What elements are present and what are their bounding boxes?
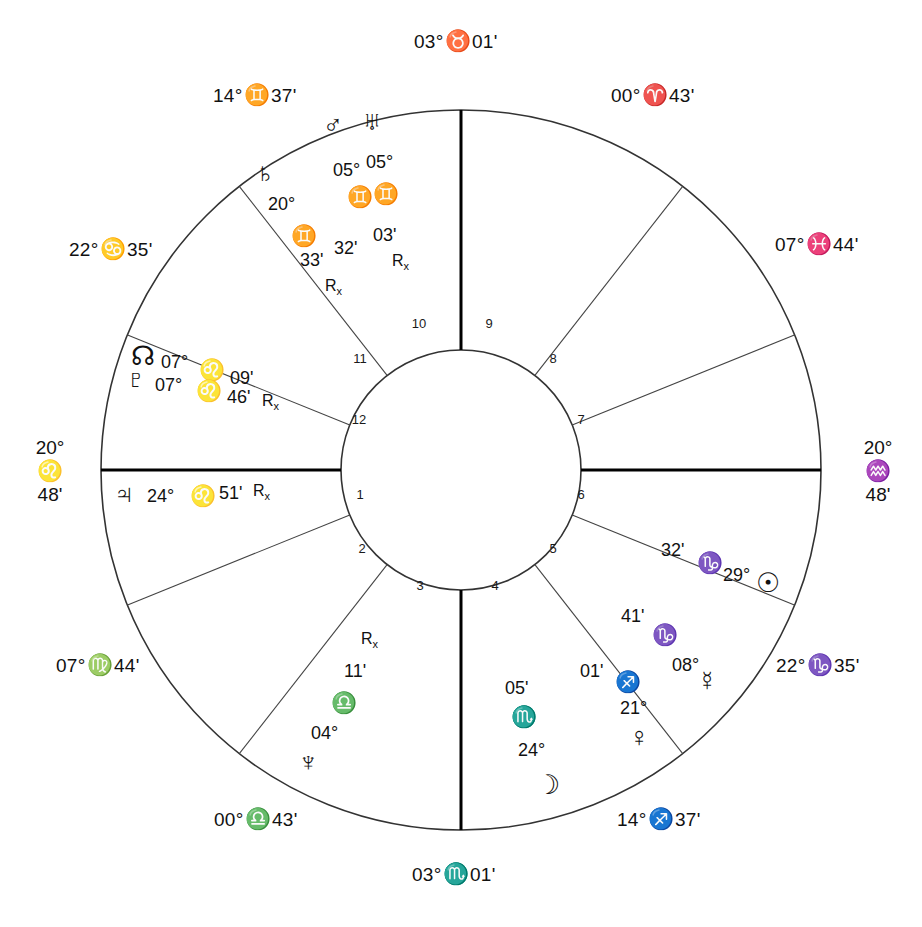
sign-glyph-virgo: ♍ (86, 653, 114, 676)
cusp-label-11: 14°♊37' (213, 84, 297, 106)
sign-glyph-capricorn: ♑ (697, 551, 723, 574)
house-number-11: 11 (350, 351, 370, 366)
uranus-icon: ♅ (362, 106, 382, 136)
cusp-minute: 35' (834, 655, 860, 676)
sign-glyph-taurus: ♉ (444, 29, 472, 52)
house-number-5: 5 (543, 541, 563, 556)
sign-glyph-gemini: ♊ (373, 182, 399, 205)
planet-sun-minute: 32' (661, 540, 684, 561)
cusp-degree: 22° (69, 239, 99, 260)
sign-glyph-scorpio: ♏ (442, 862, 470, 885)
sign-glyph-capricorn: ♑ (652, 623, 678, 646)
saturn-icon: ♄ (255, 158, 275, 188)
planet-northnode-minute: 09' (230, 368, 253, 389)
planet-venus-minute: 01' (580, 661, 603, 682)
planet-mars-glyph: ♂ (323, 112, 343, 139)
sign-glyph-libra: ♎ (331, 691, 357, 714)
sign-glyph-sagittarius: ♐ (647, 807, 675, 830)
cusp-degree: 00° (214, 809, 244, 830)
sign-glyph-gemini: ♊ (347, 185, 373, 208)
planet-uranus-degree: 05° (366, 152, 393, 173)
planet-moon-sign: ♏ (511, 705, 537, 729)
sign-glyph-leo: ♌ (196, 379, 222, 402)
planet-venus-degree: 21° (620, 698, 647, 719)
cusp-degree: 22° (776, 655, 806, 676)
planet-pluto-glyph: ♇ (126, 366, 146, 393)
cusp-label-9: 00°♈43' (611, 84, 695, 106)
moon-icon: ☽ (536, 770, 560, 800)
cusp-degree: 00° (611, 85, 641, 106)
planet-neptune-minute: 11' (344, 661, 366, 682)
cusp-minute: 44' (114, 655, 140, 676)
planet-mars-degree: 05° (333, 160, 360, 181)
house-number-10: 10 (409, 316, 429, 331)
house-number-2: 2 (352, 541, 372, 556)
planet-venus-glyph: ♀ (629, 724, 649, 751)
house-number-3: 3 (410, 578, 430, 593)
planet-neptune-retrograde: Rx (361, 630, 378, 650)
cusp-minute: 37' (271, 85, 297, 106)
cusp-label-6: 22°♑35' (776, 654, 860, 676)
venus-icon: ♀ (629, 722, 649, 752)
cusp-label-asc: 20° ♌ 48' (20, 437, 80, 507)
planet-neptune-sign: ♎ (331, 691, 357, 715)
sign-glyph-leo: ♌ (199, 358, 225, 381)
cusp-degree: 07° (775, 234, 805, 255)
planet-saturn-retrograde: Rx (325, 277, 342, 297)
sign-glyph-capricorn: ♑ (806, 653, 834, 676)
planet-mercury-minute: 41' (621, 606, 644, 627)
cusp-degree: 07° (56, 655, 86, 676)
planet-saturn-sign: ♊ (291, 224, 317, 248)
pluto-icon: ♇ (126, 364, 146, 394)
cusp-minute: 44' (833, 234, 859, 255)
cusp-degree: 03° (412, 864, 442, 885)
planet-moon-degree: 24° (518, 740, 545, 761)
cusp-degree: 14° (213, 85, 243, 106)
jupiter-icon: ♃ (114, 479, 134, 509)
planet-sun-degree: 29° (723, 565, 750, 586)
planet-pluto-sign: ♌ (196, 379, 222, 403)
planet-mercury-sign: ♑ (652, 623, 678, 647)
planet-saturn-glyph: ♄ (255, 160, 275, 187)
sign-glyph-pisces: ♓ (805, 232, 833, 255)
planet-jupiter-minute: 51' (219, 483, 242, 504)
cusp-minute: 48' (38, 484, 63, 505)
house-number-1: 1 (350, 487, 370, 502)
planet-neptune-degree: 04° (311, 723, 338, 744)
planet-neptune-glyph: ♆ (298, 749, 318, 776)
cusp-minute: 01' (470, 864, 496, 885)
sign-glyph-aries: ♈ (641, 83, 669, 106)
sign-glyph-leo: ♌ (190, 484, 216, 507)
planet-northnode-degree: 07° (161, 352, 188, 373)
mercury-icon: ☿ (697, 666, 717, 696)
cusp-minute: 43' (272, 809, 298, 830)
sign-glyph-leo: ♌ (20, 459, 80, 484)
cusp-minute: 48' (866, 484, 891, 505)
cusp-label-mc: 03°♉01' (414, 30, 498, 52)
house-number-8: 8 (543, 351, 563, 366)
cusp-label-3: 00°♎43' (214, 808, 298, 830)
sign-glyph-scorpio: ♏ (511, 705, 537, 728)
sign-glyph-gemini: ♊ (243, 83, 271, 106)
planet-saturn-minute: 33' (300, 250, 323, 271)
planet-jupiter-degree: 24° (147, 486, 174, 507)
sign-glyph-sagittarius: ♐ (615, 670, 641, 693)
cusp-degree: 14° (617, 809, 647, 830)
planet-sun-sign: ♑ (697, 551, 723, 575)
sign-glyph-cancer: ♋ (99, 237, 127, 260)
planet-moon-glyph: ☽ (536, 772, 560, 799)
cusp-label-5: 14°♐37' (617, 808, 701, 830)
cusp-label-dsc: 20° ♒ 48' (848, 437, 908, 507)
planet-pluto-degree: 07° (155, 375, 182, 396)
planet-mars-sign: ♊ (347, 185, 373, 209)
planet-mercury-glyph: ☿ (697, 668, 717, 695)
house-number-4: 4 (485, 578, 505, 593)
planet-jupiter-sign: ♌ (190, 484, 216, 508)
astrology-chart-wheel: 03°♉01' 14°♊37' 00°♈43' 22°♋35' 07°♓44' … (0, 0, 922, 927)
chart-wheel-graphic (0, 0, 922, 927)
planet-venus-sign: ♐ (615, 670, 641, 694)
planet-uranus-retrograde: Rx (392, 252, 409, 272)
sign-glyph-libra: ♎ (244, 807, 272, 830)
house-number-7: 7 (571, 412, 591, 427)
sun-icon: ☉ (756, 568, 780, 598)
